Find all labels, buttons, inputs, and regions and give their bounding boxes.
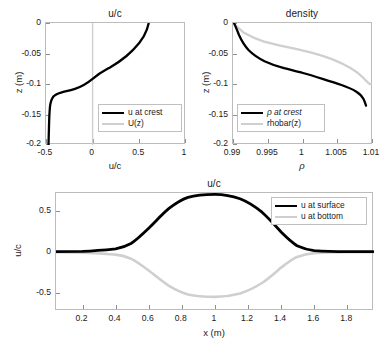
legend-item: u at crest — [102, 107, 177, 118]
legend-line-icon — [241, 112, 263, 114]
legend-density: ρ at crest rhobar(z) — [237, 104, 325, 132]
ytick-label: 0 — [20, 246, 51, 256]
xtick-label: 1 — [182, 147, 187, 157]
legend-item: ρ at crest — [241, 107, 320, 118]
xtick-label: 1.005 — [325, 147, 347, 157]
xtick-label: 0.4 — [109, 313, 121, 323]
xtick-label: 0 — [89, 147, 94, 157]
axes-uc-profile: u/c u at crest U(z) — [45, 22, 185, 144]
series-line-u-at-bottom — [56, 252, 373, 297]
xtick-label: 0.2 — [76, 313, 88, 323]
legend-line-icon — [275, 205, 297, 207]
axes-density: density ρ at crest rhobar(z) — [232, 22, 372, 144]
legend-label: u at crest — [128, 107, 162, 118]
legend-label: u at bottom — [301, 211, 343, 222]
axes-uc-profile-title: u/c — [46, 8, 184, 19]
ytick-label: 0 — [10, 17, 41, 27]
legend-line-icon — [102, 112, 124, 114]
axes-uc-profile-ylabel: z (m) — [13, 53, 24, 113]
axes-uc-profile-xlabel: u/c — [45, 160, 185, 171]
ytick-label: -0.2 — [10, 138, 41, 148]
xtick-label: 1.4 — [274, 313, 286, 323]
legend-label: U(z) — [128, 118, 144, 129]
xtick-label: 1.8 — [340, 313, 352, 323]
axes-density-title: density — [233, 8, 371, 19]
legend-line-icon — [275, 216, 297, 218]
legend-item: rhobar(z) — [241, 118, 320, 129]
axes-uc-section: u/c u at surface u at bottom — [55, 192, 373, 310]
axes-uc-section-xlabel: x (m) — [55, 327, 373, 338]
legend-label: ρ at crest — [267, 107, 302, 118]
legend-uc-section: u at surface u at bottom — [271, 197, 367, 225]
xtick-label: 0.99 — [224, 147, 241, 157]
legend-label: rhobar(z) — [267, 118, 301, 129]
legend-item: U(z) — [102, 118, 177, 129]
xtick-label: 0.6 — [142, 313, 154, 323]
axes-uc-section-ylabel: u/c — [12, 221, 23, 281]
xtick-label: 0.5 — [132, 147, 144, 157]
xtick-label: 0.995 — [256, 147, 278, 157]
legend-item: u at surface — [275, 200, 362, 211]
xtick-label: 1 — [299, 147, 304, 157]
ytick-label: -0.2 — [197, 138, 228, 148]
ytick-label: -0.5 — [20, 287, 51, 297]
ytick-label: 0 — [197, 17, 228, 27]
legend-uc-profile: u at crest U(z) — [98, 104, 182, 132]
xtick-label: 1.01 — [363, 147, 380, 157]
xtick-label: 1.6 — [307, 313, 319, 323]
xtick-label: 1 — [212, 313, 217, 323]
axes-density-xlabel: ρ — [232, 160, 372, 171]
axes-density-ylabel: z (m) — [200, 53, 211, 113]
axes-uc-section-title: u/c — [56, 178, 372, 189]
matlab-figure: u/c u at crest U(z) — [0, 0, 382, 358]
legend-label: u at surface — [301, 200, 345, 211]
xtick-label: 1.2 — [241, 313, 253, 323]
legend-line-icon — [241, 123, 263, 125]
xtick-label: -0.5 — [38, 147, 53, 157]
ytick-label: 0.5 — [20, 205, 51, 215]
legend-line-icon — [102, 123, 124, 125]
legend-item: u at bottom — [275, 211, 362, 222]
xtick-label: 0.8 — [175, 313, 187, 323]
